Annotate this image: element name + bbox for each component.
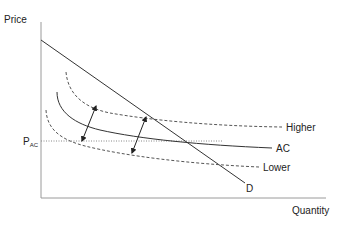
y-axis-label: Price [4,14,27,25]
diagram-canvas: Price Quantity PAC D Higher AC Lower [0,0,344,228]
demand-label: D [246,183,253,194]
demand-curve [41,40,245,183]
x-axis-label: Quantity [292,205,329,216]
lower-label: Lower [263,162,291,173]
ac-label: AC [276,143,290,154]
price-level-label: PAC [23,136,39,148]
right-shift-arrow [132,117,146,153]
price-level-subscript: AC [30,142,39,148]
higher-label: Higher [286,122,316,133]
left-shift-arrow [82,106,96,141]
